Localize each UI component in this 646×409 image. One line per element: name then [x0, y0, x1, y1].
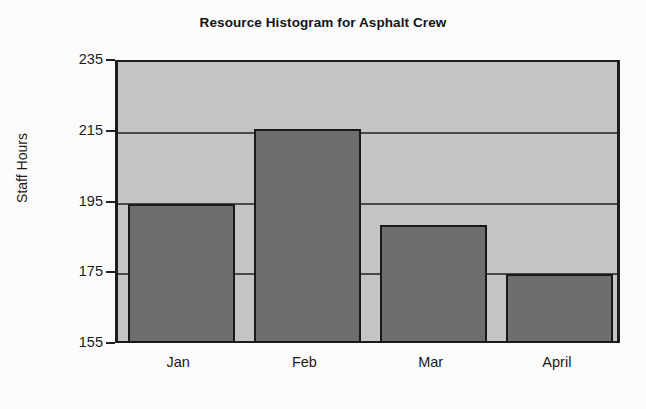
bar-mar — [380, 225, 487, 343]
plot-area — [115, 60, 620, 343]
bar-april — [506, 274, 613, 343]
x-tick-label: Jan — [115, 355, 241, 370]
x-axis-tick-labels: JanFebMarApril — [115, 355, 620, 385]
y-tick-mark — [106, 59, 115, 61]
x-tick-label: Mar — [368, 355, 494, 370]
y-tick-mark — [106, 201, 115, 203]
y-axis-title: Staff Hours — [14, 113, 30, 223]
y-tick-label: 235 — [55, 52, 103, 67]
y-tick-label: 155 — [55, 335, 103, 350]
bar-feb — [254, 129, 361, 343]
y-tick-mark — [106, 130, 115, 132]
y-axis-tick-labels: 155175195215235 — [55, 0, 103, 409]
bar-jan — [128, 204, 235, 344]
y-tick-label: 215 — [55, 123, 103, 138]
y-tick-label: 175 — [55, 264, 103, 279]
y-tick-mark — [106, 342, 115, 344]
y-tick-mark — [106, 271, 115, 273]
x-tick-label: Feb — [241, 355, 367, 370]
x-tick-label: April — [494, 355, 620, 370]
y-tick-label: 195 — [55, 194, 103, 209]
resource-histogram-figure: Resource Histogram for Asphalt Crew Staf… — [0, 0, 646, 409]
gridline — [118, 132, 617, 134]
